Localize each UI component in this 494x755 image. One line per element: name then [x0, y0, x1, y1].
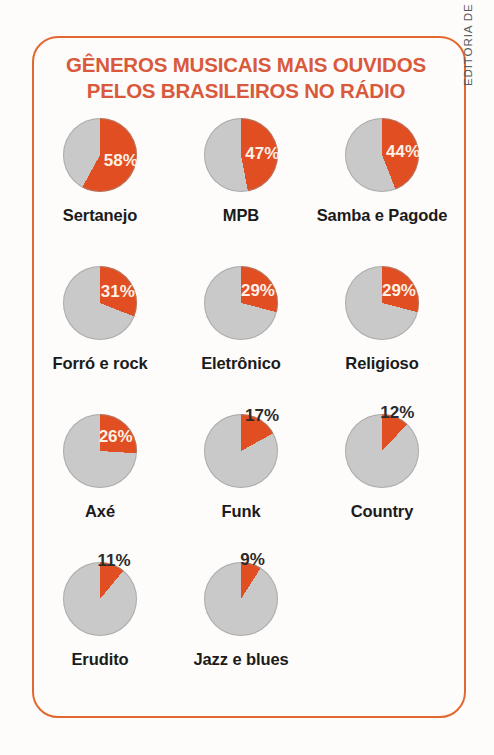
pie-disc [63, 266, 137, 340]
pie-category-label: Religioso [312, 354, 452, 373]
page-title-line-1: GÊNEROS MUSICAIS MAIS OUVIDOS [44, 52, 448, 78]
pie-chart-cell: 17%Funk [171, 414, 311, 562]
pie-category-label: Samba e Pagode [312, 206, 452, 225]
pie-value-label: 26% [99, 428, 133, 445]
pie-disc [345, 414, 419, 488]
pie-value-label: 11% [97, 552, 130, 569]
pie-chart-grid: 58%Sertanejo47%MPB44%Samba e Pagode31%Fo… [32, 118, 466, 718]
pie-disc [204, 266, 278, 340]
pie-value-label: 9% [240, 551, 265, 568]
pie-chart-cell: 31%Forró e rock [30, 266, 170, 414]
pie-value-label: 58% [104, 152, 138, 169]
pie-value-label: 29% [382, 281, 416, 298]
pie-category-label: Country [312, 502, 452, 521]
pie-value-label: 29% [241, 281, 275, 298]
pie-disc [345, 266, 419, 340]
pie-chart-cell: 44%Samba e Pagode [312, 118, 452, 266]
pie-disc [204, 562, 278, 636]
pie-chart-cell: 26%Axé [30, 414, 170, 562]
pie-value-label: 44% [386, 142, 420, 159]
pie-category-label: Jazz e blues [171, 650, 311, 669]
pie-chart-cell: 29%Eletrônico [171, 266, 311, 414]
pie-disc [204, 414, 278, 488]
pie-category-label: Sertanejo [30, 206, 170, 225]
pie-chart-cell: 11%Erudito [30, 562, 170, 710]
pie-disc [63, 562, 137, 636]
pie-category-label: Erudito [30, 650, 170, 669]
pie-category-label: Axé [30, 502, 170, 521]
pie-chart-cell: 47%MPB [171, 118, 311, 266]
pie-value-label: 17% [245, 407, 279, 424]
credit-label: EDITORIA DE ARTE [462, 0, 474, 86]
pie-chart-cell: 58%Sertanejo [30, 118, 170, 266]
pie-disc [63, 414, 137, 488]
pie-value-label: 12% [380, 404, 414, 421]
pie-category-label: MPB [171, 206, 311, 225]
pie-chart-cell: 12%Country [312, 414, 452, 562]
pie-value-label: 31% [101, 282, 135, 299]
pie-chart-cell: 9%Jazz e blues [171, 562, 311, 710]
pie-category-label: Forró e rock [30, 354, 170, 373]
infographic-root: GÊNEROS MUSICAIS MAIS OUVIDOS PELOS BRAS… [0, 0, 494, 755]
pie-chart-cell: 29%Religioso [312, 266, 452, 414]
pie-category-label: Funk [171, 502, 311, 521]
pie-category-label: Eletrônico [171, 354, 311, 373]
page-title: GÊNEROS MUSICAIS MAIS OUVIDOS PELOS BRAS… [44, 52, 448, 104]
pie-value-label: 47% [245, 144, 279, 161]
page-title-line-2: PELOS BRASILEIROS NO RÁDIO [44, 78, 448, 104]
